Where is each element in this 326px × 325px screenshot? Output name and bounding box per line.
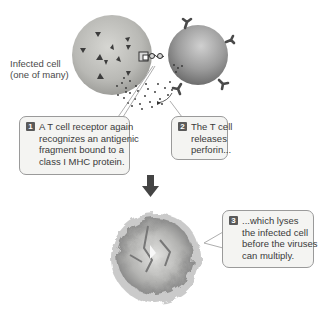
infected-cell-label-line-1: Infected cell xyxy=(10,58,69,69)
step-3-line-3: before the viruses xyxy=(229,238,307,250)
step-1-line-1: A T cell receptor again xyxy=(39,121,133,132)
step-2-badge: 2 xyxy=(178,122,187,131)
infected-cell-label: Infected cell (one of many) xyxy=(10,58,69,80)
step-2-line-1: The T cell xyxy=(191,121,232,132)
step-3-line-1: ...which lyses xyxy=(242,215,299,226)
step-1-line-4: class I MHC protein. xyxy=(26,156,123,168)
step-1-callout: 1A T cell receptor again recognizes an a… xyxy=(19,116,130,175)
down-arrow-icon xyxy=(142,175,159,197)
step-2-line-2: releases xyxy=(178,133,221,145)
step-1-line-3: fragment bound to a xyxy=(26,144,123,156)
step-3-callout: 3...which lyses the infected cell before… xyxy=(222,210,314,268)
callout-3-pointer xyxy=(204,232,223,248)
step-1-badge: 1 xyxy=(26,122,35,131)
step-1-line-2: recognizes an antigenic xyxy=(26,133,123,145)
step-3-badge: 3 xyxy=(229,216,238,225)
step-3-line-4: can multiply. xyxy=(229,250,307,262)
step-2-line-3: perforin... xyxy=(178,144,221,156)
callout-2-pointer xyxy=(170,101,182,117)
step-2-callout: 2The T cell releases perforin... xyxy=(171,116,228,160)
infected-cell-label-line-2: (one of many) xyxy=(10,69,69,80)
lysed-cell-icon xyxy=(111,213,201,303)
step-3-line-2: the infected cell xyxy=(229,227,307,239)
t-cell-icon xyxy=(168,19,234,94)
